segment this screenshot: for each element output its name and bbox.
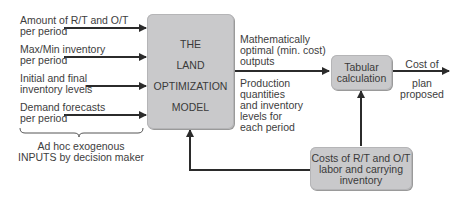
input-label-3-line2: inventory levels	[20, 83, 92, 95]
result-line3: proposed	[398, 88, 446, 100]
input-label-4-line2: per period	[20, 112, 67, 124]
inputs-brace	[20, 128, 143, 137]
result-line1: Cost of	[398, 58, 446, 70]
input-label-1-line2: per period	[20, 25, 67, 37]
costs-box: Costs of R/T and O/T labor and carrying …	[310, 147, 412, 190]
optimal-outputs-line3: outputs	[240, 55, 274, 67]
model-text-line3: OPTIMIZATION	[147, 80, 234, 92]
inputs-group-label-line2: INPUTS by decision maker	[0, 151, 162, 163]
tabular-calculation-box: Tabular calculation	[331, 55, 392, 90]
production-label-line5: each period	[240, 121, 295, 133]
input-label-2-line2: per period	[20, 54, 67, 66]
model-text-line2: LAND	[147, 59, 234, 71]
model-text-line4: MODEL	[147, 101, 234, 113]
land-optimization-model-box: THE LAND OPTIMIZATION MODEL	[147, 14, 234, 129]
model-text-line1: THE	[147, 38, 234, 50]
costs-text-line3: inventory	[310, 174, 412, 186]
tabular-text-line2: calculation	[331, 72, 392, 84]
costs-to-model-arrow	[190, 130, 310, 170]
